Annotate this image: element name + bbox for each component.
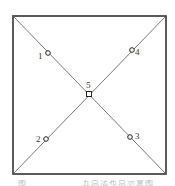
sample-point-4: 4 [130,47,140,57]
svg-text:3: 3 [135,131,140,141]
svg-text:2: 2 [36,134,41,144]
svg-text:1: 1 [38,51,43,61]
caption-prefix: 图 [18,180,26,186]
sample-point-5: 5 [86,80,92,97]
five-point-diagram: 1 4 5 2 3 [0,0,175,186]
sample-point-1: 1 [38,51,50,61]
svg-text:5: 5 [86,80,91,90]
sample-point-2: 2 [36,134,48,144]
caption-title: 五点法布点示意图 [82,180,154,186]
figure-caption: 图 五点法布点示意图 [0,180,175,186]
svg-text:4: 4 [135,47,140,57]
sample-point-3: 3 [128,131,140,141]
